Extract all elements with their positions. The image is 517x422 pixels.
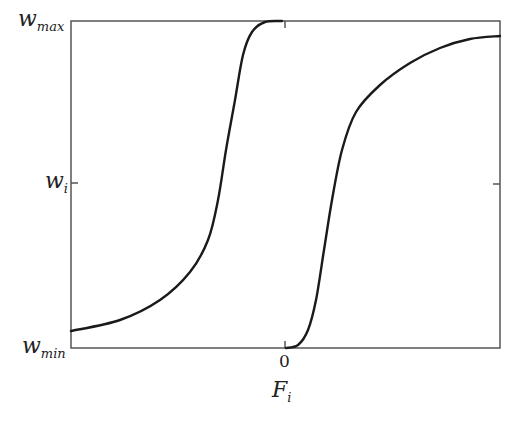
chart-canvas [0, 0, 517, 422]
y-label-w-min: wmin [22, 333, 66, 361]
y-label-w-max-sub: max [37, 19, 64, 34]
y-label-w-i-base: w [45, 168, 64, 193]
y-label-w-max-base: w [18, 6, 37, 31]
plot-frame [71, 21, 500, 348]
left-sigmoid-curve [71, 21, 282, 331]
x-tick-label-zero: 0 [279, 351, 290, 371]
y-label-w-i-sub: i [64, 181, 68, 196]
x-axis-label-base: F [272, 377, 287, 402]
y-label-w-i: wi [45, 168, 68, 196]
y-label-w-max: wmax [18, 6, 64, 34]
x-axis-label: Fi [272, 377, 291, 405]
y-label-w-min-base: w [22, 333, 41, 358]
right-sigmoid-curve [286, 36, 500, 348]
x-axis-label-sub: i [287, 390, 291, 405]
y-label-w-min-sub: min [41, 346, 66, 361]
